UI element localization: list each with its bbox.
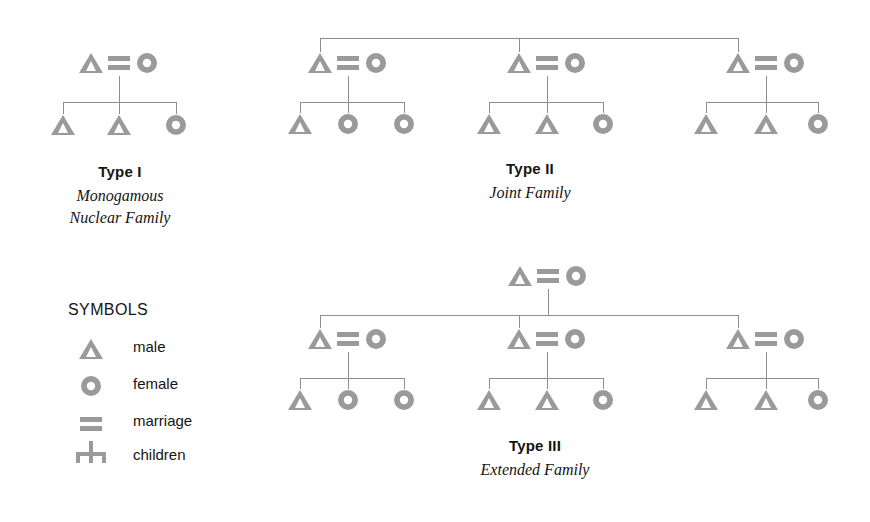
descent-line (766, 352, 767, 378)
male-triangle-icon (476, 113, 502, 135)
male-triangle-icon (725, 328, 751, 350)
sub-label-line-1: Monogamous (40, 186, 200, 206)
couple-stem (320, 315, 321, 328)
child-stem (603, 102, 604, 113)
type-label: Type II (450, 160, 610, 177)
legend-label-male: male (133, 338, 166, 355)
female-circle-icon (335, 389, 361, 411)
marriage-double-bar-icon (536, 56, 558, 70)
descent-line (547, 76, 548, 102)
marriage-double-bar-icon (337, 56, 359, 70)
child-stem (547, 378, 548, 389)
child-stem (300, 378, 301, 389)
female-circle-icon (391, 389, 417, 411)
female-circle-icon (335, 113, 361, 135)
female-circle-icon (781, 52, 807, 74)
couple-stem (738, 38, 739, 52)
descent-line (348, 352, 349, 378)
male-triangle-icon (534, 389, 560, 411)
marriage-double-bar-icon (755, 56, 777, 70)
sub-label-line-1: Joint Family (450, 183, 610, 203)
female-circle-icon (590, 389, 616, 411)
descent-line (119, 76, 120, 102)
child-stem (489, 378, 490, 389)
female-circle-icon (805, 389, 831, 411)
child-stem (63, 102, 64, 114)
type-label: Type I (40, 163, 200, 180)
male-triangle-icon (476, 389, 502, 411)
child-stem (348, 102, 349, 113)
legend-title: SYMBOLS (68, 301, 148, 319)
male-triangle-icon (78, 52, 104, 74)
sub-label-line-2: Nuclear Family (40, 208, 200, 228)
child-stem (818, 378, 819, 389)
male-triangle-icon (725, 52, 751, 74)
sibling-bar (706, 378, 818, 379)
female-circle-icon (78, 375, 104, 397)
couple-stem (519, 38, 520, 52)
child-stem (766, 102, 767, 113)
child-stem (706, 378, 707, 389)
descent-line (547, 352, 548, 378)
child-stem (489, 102, 490, 113)
child-stem (766, 378, 767, 389)
female-circle-icon (363, 328, 389, 350)
sibling-bar (489, 102, 603, 103)
top-sibling-bar (320, 38, 738, 39)
male-triangle-icon (753, 389, 779, 411)
male-triangle-icon (506, 328, 532, 350)
male-triangle-icon (534, 113, 560, 135)
marriage-double-bar-icon (537, 269, 559, 283)
top-sibling-bar (320, 315, 738, 316)
marriage-double-bar-icon (337, 332, 359, 346)
marriage-double-bar-icon (755, 332, 777, 346)
female-circle-icon (805, 113, 831, 135)
couple-stem (738, 315, 739, 328)
female-circle-icon (134, 52, 160, 74)
male-triangle-icon (507, 265, 533, 287)
children-descent-icon (76, 441, 106, 461)
female-circle-icon (563, 265, 589, 287)
child-stem (176, 102, 177, 114)
kinship-diagram-figure: Type I Monogamous Nuclear Family (0, 0, 870, 522)
male-triangle-icon (78, 338, 104, 360)
male-triangle-icon (753, 113, 779, 135)
child-stem (706, 102, 707, 113)
marriage-double-bar-icon (108, 56, 130, 70)
descent-line (548, 289, 549, 315)
couple-stem (519, 315, 520, 328)
couple-stem (320, 38, 321, 52)
type-label: Type III (455, 437, 615, 454)
male-triangle-icon (287, 389, 313, 411)
male-triangle-icon (106, 114, 132, 136)
child-stem (404, 102, 405, 113)
sibling-bar (300, 378, 404, 379)
male-triangle-icon (307, 52, 333, 74)
male-triangle-icon (693, 113, 719, 135)
sibling-bar (706, 102, 818, 103)
female-circle-icon (363, 52, 389, 74)
legend-label-marriage: marriage (133, 412, 192, 429)
child-stem (603, 378, 604, 389)
male-triangle-icon (287, 113, 313, 135)
sibling-bar (300, 102, 404, 103)
male-triangle-icon (307, 328, 333, 350)
child-stem (818, 102, 819, 113)
legend-label-children: children (133, 446, 186, 463)
sibling-bar (489, 378, 603, 379)
male-triangle-icon (506, 52, 532, 74)
sub-label-line-1: Extended Family (455, 460, 615, 480)
marriage-double-bar-icon (536, 332, 558, 346)
child-stem (119, 102, 120, 114)
female-circle-icon (781, 328, 807, 350)
male-triangle-icon (693, 389, 719, 411)
female-circle-icon (391, 113, 417, 135)
descent-line (348, 76, 349, 102)
child-stem (300, 102, 301, 113)
descent-line (766, 76, 767, 102)
female-circle-icon (163, 114, 189, 136)
child-stem (547, 102, 548, 113)
marriage-double-bar-icon (80, 417, 102, 431)
female-circle-icon (590, 113, 616, 135)
female-circle-icon (562, 52, 588, 74)
